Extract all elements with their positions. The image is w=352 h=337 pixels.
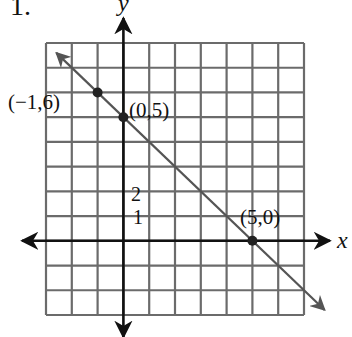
point-label-5-0: (5,0): [240, 207, 280, 228]
tick-label-1: 1: [133, 207, 143, 227]
problem-number: 1.: [10, 0, 31, 20]
grid-lines: [46, 43, 304, 315]
data-point-dot-icon: [93, 87, 103, 97]
data-point-dot-icon: [118, 112, 128, 122]
x-axis-label: x: [337, 228, 348, 252]
point-label-neg1-6: (−1,6): [8, 92, 60, 113]
tick-label-2: 2: [131, 184, 141, 204]
point-label-0-5: (0,5): [129, 100, 169, 121]
data-point-dot-icon: [247, 236, 257, 246]
coordinate-plane-figure: 1. y x (−1,6) (0,5) (5,0) 2 1: [0, 0, 352, 337]
y-axis-label: y: [118, 0, 129, 15]
graph-plot: [0, 0, 352, 337]
